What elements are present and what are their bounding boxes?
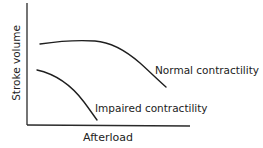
normal-contractility-label: Normal contractility: [155, 64, 259, 76]
afterload-stroke-volume-chart: Normal contractility Impaired contractil…: [0, 0, 263, 148]
y-axis-label: Stroke volume: [10, 25, 22, 101]
x-axis: [27, 125, 190, 126]
normal-contractility-curve: [40, 41, 166, 87]
impaired-contractility-curve: [37, 70, 97, 120]
x-axis-label: Afterload: [83, 131, 133, 144]
impaired-contractility-label: Impaired contractility: [95, 102, 208, 114]
